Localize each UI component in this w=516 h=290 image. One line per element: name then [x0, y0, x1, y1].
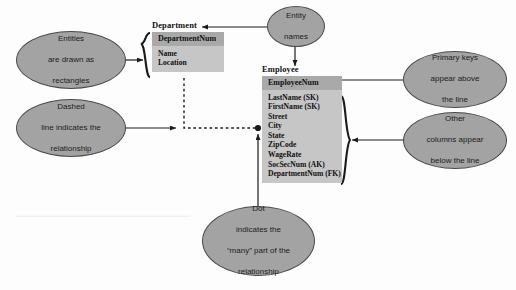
callout-line: the line	[427, 95, 484, 106]
callout-line: line indicates the	[37, 123, 105, 134]
callout-line: below the line	[423, 156, 488, 167]
callout-dot-many[interactable]: Dot indicates the “many” part of the rel…	[202, 206, 315, 276]
callout-entity-names-text: Entity names	[276, 11, 316, 43]
entity-employee-body: EmployeeNum LastName (SK) FirstName (SK)…	[262, 76, 342, 183]
connector-entities-rectangles	[125, 33, 150, 77]
callout-line: relationship	[223, 267, 294, 278]
entity-employee-column: SocSecNum (AK)	[268, 160, 342, 170]
entity-employee-title: Employee	[262, 64, 342, 74]
entity-department-primary-key: DepartmentNum	[152, 32, 224, 46]
entity-department-columns: Name Location	[152, 46, 224, 72]
callout-line: names	[280, 32, 312, 43]
entity-employee-column: WageRate	[268, 150, 342, 160]
callout-line: “many” part of the	[223, 246, 294, 257]
connector-other-columns	[341, 96, 404, 184]
entity-employee-column: City	[268, 121, 342, 131]
relationship-dashed-line	[184, 78, 256, 128]
callout-dashed-line-text: Dashed line indicates the relationship	[33, 102, 109, 155]
entity-department-title: Department	[152, 20, 224, 30]
entity-employee-column: State	[268, 131, 342, 141]
callout-line: appear above	[427, 74, 484, 85]
diagram-canvas: ▁▁▁▁▁▁▁▁▁▁▁▁▁▁▁▁▁▁▁▁▁▁▁▁▁▁▁▁▁	[0, 0, 516, 290]
entity-employee-column: FirstName (SK)	[268, 102, 342, 112]
callout-dashed-line[interactable]: Dashed line indicates the relationship	[16, 99, 126, 157]
entity-employee-column: LastName (SK)	[268, 93, 342, 103]
callout-line: rectangles	[44, 76, 98, 87]
callout-line: relationship	[37, 144, 105, 155]
callout-line: Primary keys	[427, 53, 484, 64]
callout-line: Other	[423, 114, 488, 125]
callout-line: are drawn as	[44, 55, 98, 66]
callout-line: columns appear	[423, 135, 488, 146]
callout-other-columns-text: Other columns appear below the line	[419, 114, 492, 167]
callout-line: Entity	[280, 11, 312, 22]
callout-entities-rectangles[interactable]: Entities are drawn as rectangles	[16, 31, 126, 89]
callout-line: Entities	[44, 34, 98, 45]
entity-employee[interactable]: Employee EmployeeNum LastName (SK) First…	[262, 64, 342, 183]
entity-employee-column: ZipCode	[268, 140, 342, 150]
callout-dot-many-text: Dot indicates the “many” part of the rel…	[219, 204, 298, 278]
callout-line: Dot	[223, 204, 294, 215]
callout-line: Dashed	[37, 102, 105, 113]
entity-employee-column: DepartmentNum (FK)	[268, 169, 342, 179]
callout-primary-keys[interactable]: Primary keys appear above the line	[403, 51, 507, 108]
callout-primary-keys-text: Primary keys appear above the line	[423, 53, 488, 106]
entity-employee-columns: LastName (SK) FirstName (SK) Street City…	[262, 90, 342, 183]
callout-entities-rectangles-text: Entities are drawn as rectangles	[40, 34, 102, 87]
entity-department-body: DepartmentNum Name Location	[152, 32, 224, 72]
callout-line: indicates the	[223, 225, 294, 236]
callout-entity-names[interactable]: Entity names	[267, 6, 325, 47]
callout-other-columns[interactable]: Other columns appear below the line	[403, 112, 507, 169]
many-dot-marker	[255, 125, 261, 131]
entity-department-column: Location	[158, 58, 224, 68]
entity-department[interactable]: Department DepartmentNum Name Location	[152, 20, 224, 72]
entity-department-column: Name	[158, 49, 224, 59]
entity-employee-primary-key: EmployeeNum	[262, 76, 342, 90]
entity-employee-column: Street	[268, 112, 342, 122]
